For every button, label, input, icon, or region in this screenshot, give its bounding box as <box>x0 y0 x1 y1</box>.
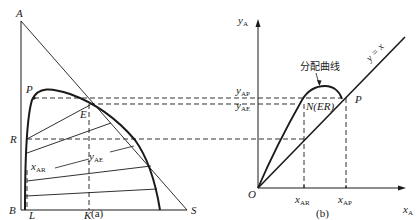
x-axis-label: xA <box>402 203 413 217</box>
y-AE-tick-label: yAE <box>235 99 250 113</box>
y-axis-label: yA <box>237 14 248 28</box>
point-P-label-b: P <box>354 93 362 105</box>
x-axis-arrow-icon <box>398 186 406 191</box>
point-P-label: P <box>25 83 33 95</box>
panel-b-distribution-plot: yA xA O yAP yAE xAR xAP 分配曲线 y = x N(ER)… <box>235 14 413 220</box>
y-AE-leader <box>55 159 89 168</box>
panel-a-caption: (a) <box>91 207 104 220</box>
point-E-label: E <box>79 108 87 120</box>
point-R-label: R <box>9 133 17 145</box>
side-AS <box>21 21 187 210</box>
vertex-B-label: B <box>9 204 16 216</box>
y-AE-leader-2 <box>110 146 134 152</box>
x-AP-tick-label: xAP <box>337 193 352 207</box>
vertex-S-label: S <box>191 204 197 216</box>
extraction-diagram-figure: A B S P E R L K xAR yAE (a) <box>0 0 417 220</box>
y-AP-tick-label: yAP <box>235 84 250 98</box>
point-N-label: N(ER) <box>305 100 334 113</box>
point-L-label: L <box>28 209 35 220</box>
panel-b-caption: (b) <box>316 207 329 220</box>
curve-label-arrowhead-icon <box>317 80 322 86</box>
y-AE-annotation: yAE <box>88 150 103 164</box>
vertex-A-label: A <box>15 7 23 19</box>
x-AR-annotation: xAR <box>30 160 46 174</box>
diagonal-y-equals-x <box>258 37 405 188</box>
x-AR-tick-label: xAR <box>294 193 310 207</box>
y-axis-arrow-icon <box>256 19 261 27</box>
origin-O-label: O <box>248 188 256 200</box>
distribution-curve-label: 分配曲线 <box>300 60 340 72</box>
point-P-marker <box>32 96 35 99</box>
